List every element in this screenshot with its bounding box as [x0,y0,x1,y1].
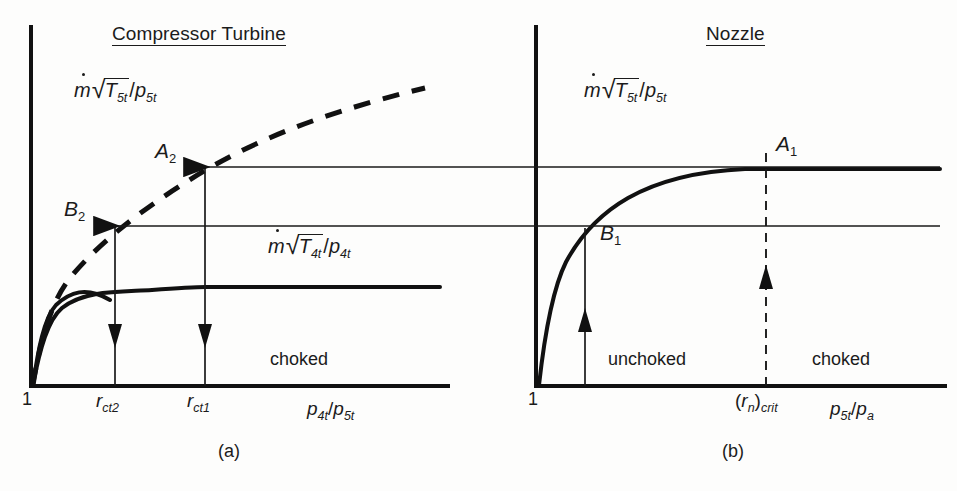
panel-a-region-choked: choked [270,350,328,368]
panel-a-title: Compressor Turbine [112,24,286,46]
panel-b-region-choked: choked [812,350,870,368]
panel-a-radicand: T [105,79,117,101]
panel-b-point-b1-sub: 1 [614,233,621,248]
panel-a-caption: (a) [218,442,240,460]
panel-b-rncrit-line [759,146,773,386]
panel-b-y-axis-parameter: m√T5t/p5t [584,78,666,105]
panel-a-tick-rct1-sub: ct1 [193,401,210,415]
panel-a-inner-denominator-sub: 4t [340,247,350,261]
panel-b-point-b1: B1 [600,222,621,247]
panel-a-xlabel-num: p [307,398,318,419]
panel-b-caption: (b) [722,442,744,460]
panel-a-tick-rct2: rct2 [96,391,119,414]
panel-b-xlabel-num: p [830,398,841,419]
panel-b-b1-riser [578,228,592,386]
panel-a-xlabel-den-sub: 5t [344,409,354,423]
panel-b-origin-tick: 1 [528,390,538,408]
panel-a-radicand-sub: 5t [117,91,127,105]
panel-a-solid-curve [33,287,440,385]
panel-a-point-a2: A2 [155,140,176,165]
panel-a-xlabel-den: p [333,398,344,419]
panel-a-x-axis-label: p4t/p5t [307,399,354,422]
panel-b-xlabel-den: p [856,398,867,419]
panel-a-tick-rct2-sub: ct2 [102,401,119,415]
diagram-canvas [0,0,957,491]
panel-a-denominator-sub: 5t [146,91,156,105]
panel-b-tick-sub2: crit [761,401,778,415]
panel-a-point-a2-sub: 2 [169,151,176,166]
panel-b-denominator-sub: 5t [656,91,666,105]
panel-b-x-axis-label: p5t/pa [830,399,874,422]
panel-b-denominator: p [645,79,656,101]
panel-b-xlabel-den-sub: a [867,409,874,423]
panel-b-point-a1: A1 [776,133,797,158]
panel-a-rct1-dropline [198,167,212,386]
panel-b-point-a1-sub: 1 [790,144,797,159]
panel-b-solid-curve [539,169,940,385]
panel-a-inner-mdot-symbol: m [268,235,285,257]
figure-root: Compressor Turbine m√T5t/p5t A2 B2 m√T4t… [0,0,957,491]
panel-a-point-b2-sub: 2 [78,209,85,224]
panel-a-dashed-curve [33,88,425,385]
panel-a-inner-denominator: p [329,235,340,257]
panel-b-tick-sub: n [748,401,755,415]
panel-a-point-a2-symbol: A [155,139,169,162]
panel-b-region-unchoked: unchoked [608,350,686,368]
panel-b-radicand: T [615,79,627,101]
panel-a-point-b2: B2 [64,198,85,223]
panel-b-tick-rncrit: (rn)crit [735,391,778,414]
panel-a-origin-tick: 1 [22,390,32,408]
panel-a-inner-parameter: m√T4t/p4t [268,234,350,261]
panel-a-inner-radicand-sub: 4t [311,247,321,261]
panel-a-tick-rct1: rct1 [187,391,210,414]
panel-a-inner-radicand: T [299,235,311,257]
panel-b-point-a1-symbol: A [776,132,790,155]
panel-a-y-axis-parameter: m√T5t/p5t [74,78,156,105]
panel-a-point-b2-symbol: B [64,197,78,220]
panel-b-title: Nozzle [706,24,765,46]
panel-a-denominator: p [135,79,146,101]
panel-a-rct2-dropline [108,225,122,386]
panel-b-mdot-symbol: m [584,79,601,101]
panel-b-radicand-sub: 5t [627,91,637,105]
panel-b-xlabel-num-sub: 5t [841,409,851,423]
panel-a-mdot-symbol: m [74,79,91,101]
panel-b-point-b1-symbol: B [600,221,614,244]
panel-a-xlabel-num-sub: 4t [318,409,328,423]
